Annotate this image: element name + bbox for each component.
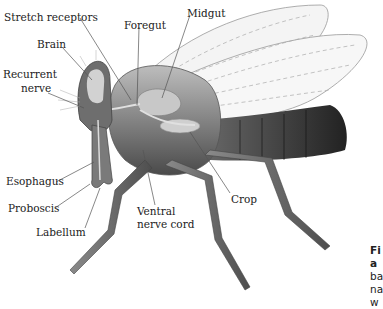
label-crop: Crop xyxy=(231,193,257,205)
label-stretch-receptors: Stretch receptors xyxy=(4,11,98,23)
label-foregut: Foregut xyxy=(124,19,166,31)
label-brain: Brain xyxy=(37,38,66,50)
label-ventral-nerve-cord-line2: nerve cord xyxy=(137,218,194,230)
caption-line-4: na xyxy=(370,283,383,296)
label-midgut: Midgut xyxy=(187,7,226,19)
caption-line-1: Fi xyxy=(370,244,381,257)
caption-line-5: w xyxy=(370,296,379,309)
label-esophagus: Esophagus xyxy=(6,175,64,187)
label-proboscis: Proboscis xyxy=(8,202,59,214)
label-ventral-nerve-cord-line1: Ventral xyxy=(137,205,175,217)
label-labellum: Labellum xyxy=(36,226,86,238)
label-recurrent-nerve-line1: Recurrent xyxy=(3,68,57,80)
caption-line-3: ba xyxy=(370,270,383,283)
caption-line-2: a xyxy=(370,257,377,270)
label-recurrent-nerve-line2: nerve xyxy=(21,82,51,94)
